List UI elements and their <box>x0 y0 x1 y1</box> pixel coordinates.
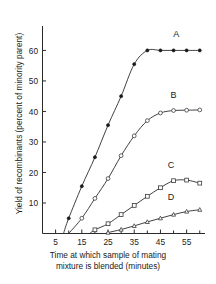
data-point-B <box>132 134 136 138</box>
chart-figure: 10203040506051525354555 ABCD Time at whi… <box>0 0 216 284</box>
series-D <box>105 208 201 235</box>
y-tick-label: 40 <box>29 107 39 117</box>
x-tick-label: 45 <box>156 237 166 247</box>
data-point-D <box>198 208 202 212</box>
data-point-D <box>185 209 189 213</box>
data-point-B <box>172 109 176 113</box>
series-label-C: C <box>168 160 175 170</box>
y-tick-label: 50 <box>29 76 39 86</box>
data-point-C <box>119 213 123 217</box>
x-tick-label: 55 <box>182 237 192 247</box>
data-point-B <box>145 119 149 123</box>
data-point-D <box>158 216 162 220</box>
x-tick-label: 35 <box>130 237 140 247</box>
data-point-C <box>145 194 149 198</box>
data-point-A <box>185 49 188 52</box>
x-tick-label: 5 <box>53 237 58 247</box>
data-point-A <box>106 124 109 127</box>
data-series-group <box>63 49 201 234</box>
data-point-D <box>119 227 123 231</box>
data-point-C <box>172 179 176 183</box>
series-label-A: A <box>173 29 179 39</box>
data-point-D <box>172 212 176 216</box>
data-point-C <box>132 204 136 208</box>
series-label-B: B <box>171 90 177 100</box>
y-tick-label: 60 <box>29 46 39 56</box>
data-point-D <box>106 230 110 234</box>
x-axis-title: Time at which sample of mating mixture i… <box>0 250 216 272</box>
data-point-D <box>145 220 149 224</box>
y-tick-label: 30 <box>29 137 39 147</box>
data-point-A <box>146 49 149 52</box>
data-point-A <box>133 63 136 66</box>
x-tick-label: 25 <box>103 237 113 247</box>
y-tick-label: 10 <box>29 198 39 208</box>
curve-line-A <box>63 49 199 233</box>
data-point-A <box>80 185 83 188</box>
data-point-B <box>80 216 84 220</box>
series-label-D: D <box>168 192 175 202</box>
data-point-C <box>159 186 163 190</box>
x-tick-label: 15 <box>77 237 87 247</box>
data-point-A <box>172 49 175 52</box>
data-point-C <box>198 181 202 185</box>
axes: 10203040506051525354555 <box>29 26 205 247</box>
data-point-D <box>132 224 136 228</box>
data-point-C <box>106 222 110 226</box>
data-point-B <box>198 108 202 112</box>
data-point-A <box>93 156 96 159</box>
x-axis-title-line-2: mixture is blended (minutes) <box>0 261 216 272</box>
y-axis-title: Yield of recombinants (percent of minori… <box>14 9 25 239</box>
data-point-A <box>198 49 201 52</box>
data-point-B <box>185 108 189 112</box>
y-tick-label: 20 <box>29 168 39 178</box>
x-axis-title-line-1: Time at which sample of mating <box>0 250 216 261</box>
data-point-B <box>159 111 163 115</box>
data-point-B <box>93 197 97 201</box>
data-point-C <box>185 178 189 182</box>
line-chart-canvas: 10203040506051525354555 ABCD <box>0 0 216 284</box>
data-point-A <box>120 95 123 98</box>
series-C <box>90 178 202 233</box>
data-point-A <box>159 49 162 52</box>
data-point-A <box>67 217 70 220</box>
data-point-B <box>119 154 123 158</box>
data-point-C <box>93 228 97 232</box>
series-labels-group: ABCD <box>168 29 179 202</box>
data-point-B <box>106 177 110 181</box>
